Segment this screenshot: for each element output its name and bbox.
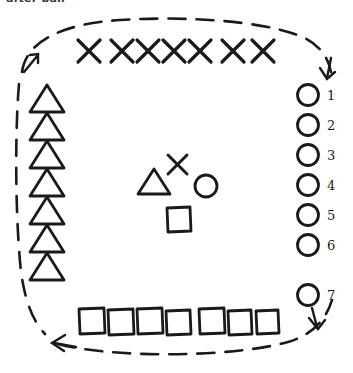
center-square-mark	[167, 207, 191, 232]
center-cluster	[0, 0, 353, 373]
center-circle-mark	[195, 175, 217, 197]
center-triangle-mark	[138, 169, 170, 194]
center-cross-mark	[168, 155, 187, 174]
diagram-canvas: after ball	[0, 0, 353, 373]
